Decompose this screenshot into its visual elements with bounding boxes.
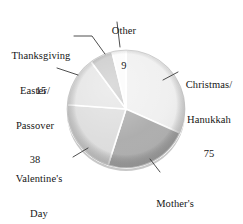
slice-label-other-text: Other — [96, 25, 152, 37]
slice-label-christmas-hanukkah-value: 75 — [177, 148, 241, 160]
slice-label-other: Other 9 — [96, 2, 152, 94]
slice-label-valentines-day-line1: Valentine's — [2, 173, 76, 185]
slice-label-christmas-hanukkah-line1: Christmas/ — [177, 79, 241, 91]
pie-chart-figure: Other 9 Thanksgiving 15 Easter/ Passover… — [0, 0, 243, 224]
slice-label-easter-passover-line1: Easter/ — [2, 85, 68, 97]
slice-label-christmas-hanukkah-line2: Hanukkah — [177, 114, 241, 126]
slice-label-mothers-day-line1: Mother's — [146, 198, 204, 210]
slice-label-valentines-day: Valentine's Day 45 — [2, 150, 76, 224]
slice-label-easter-passover-line2: Passover — [2, 120, 68, 132]
slice-label-thanksgiving-text: Thanksgiving — [2, 50, 80, 62]
slice-label-other-value: 9 — [96, 60, 152, 72]
slice-label-valentines-day-line2: Day — [2, 208, 76, 220]
slice-label-christmas-hanukkah: Christmas/ Hanukkah 75 — [177, 56, 241, 183]
slice-label-mothers-day: Mother's Day 55 — [146, 175, 204, 224]
